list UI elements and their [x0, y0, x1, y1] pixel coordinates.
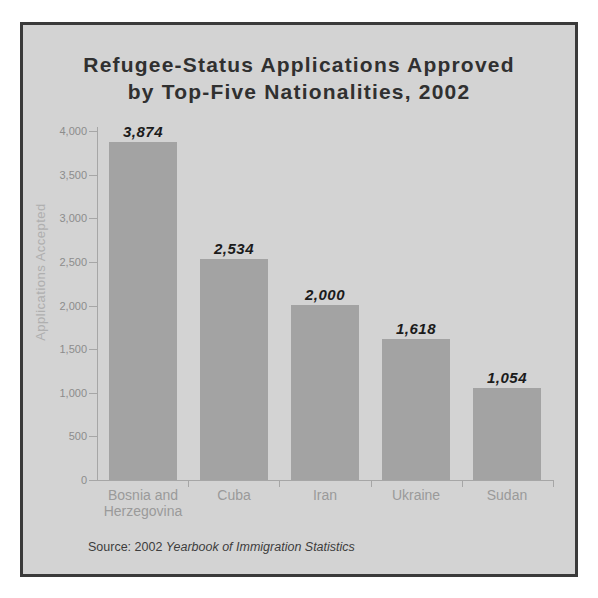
y-tick-label: 1,000 [23, 386, 87, 400]
source-note: Source: 2002 Yearbook of Immigration Sta… [88, 540, 355, 554]
y-tick-label: 4,000 [23, 124, 87, 138]
y-tick-mark [89, 306, 97, 307]
y-axis-line [97, 127, 98, 481]
bar-value-label: 3,874 [83, 123, 203, 140]
y-tick-label: 0 [23, 473, 87, 487]
chart-panel: Refugee-Status Applications Approved by … [20, 22, 578, 577]
bar [109, 142, 177, 480]
y-tick-label: 3,000 [23, 211, 87, 225]
bar-value-label: 1,618 [356, 320, 476, 337]
y-tick-mark [89, 175, 97, 176]
y-tick-mark [89, 480, 97, 481]
source-work-title: Yearbook of Immigration Statistics [166, 540, 355, 554]
bar [200, 259, 268, 480]
source-prefix: Source: 2002 [88, 540, 166, 554]
category-label: Sudan [452, 487, 562, 503]
y-tick-label: 500 [23, 429, 87, 443]
plot-area: 05001,0001,5002,0002,5003,0003,5004,0003… [23, 25, 575, 574]
bar [382, 339, 450, 480]
bar-value-label: 2,000 [265, 286, 385, 303]
x-axis-line [97, 480, 554, 481]
bar-value-label: 1,054 [447, 369, 567, 386]
bar [473, 388, 541, 480]
y-tick-mark [89, 262, 97, 263]
y-tick-label: 2,500 [23, 255, 87, 269]
y-tick-mark [89, 349, 97, 350]
bar-value-label: 2,534 [174, 240, 294, 257]
bar [291, 305, 359, 480]
y-tick-label: 2,000 [23, 299, 87, 313]
y-tick-label: 1,500 [23, 342, 87, 356]
y-tick-mark [89, 393, 97, 394]
y-tick-mark [89, 218, 97, 219]
y-tick-mark [89, 436, 97, 437]
y-tick-label: 3,500 [23, 168, 87, 182]
